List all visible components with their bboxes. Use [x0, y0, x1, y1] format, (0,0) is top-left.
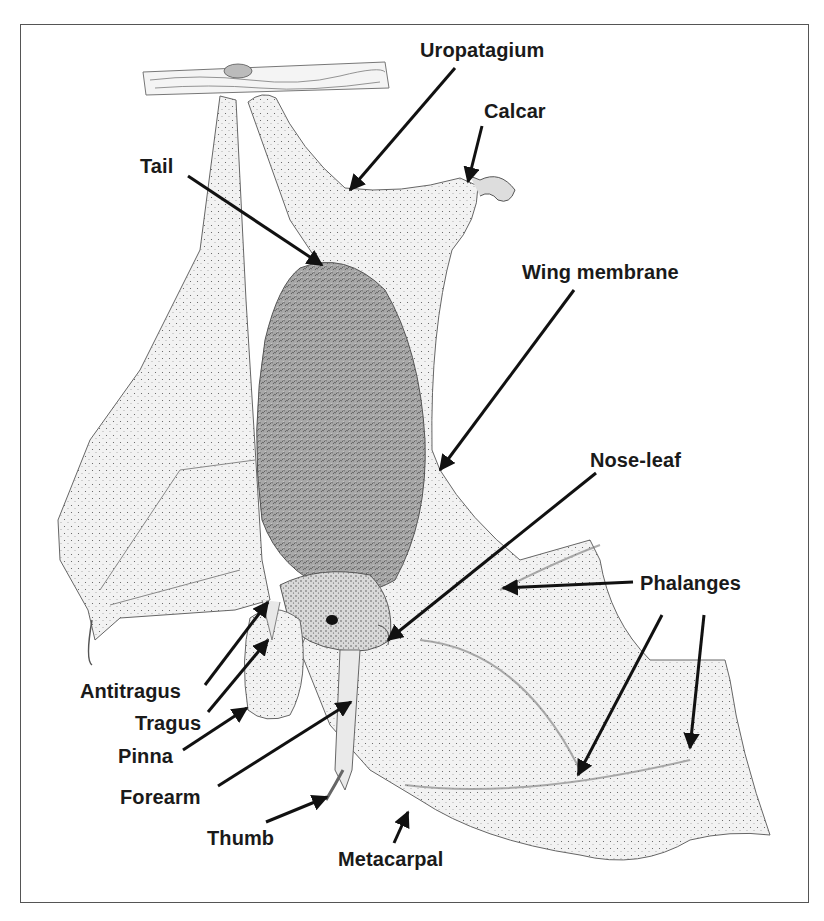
label-nose-leaf: Nose-leaf — [590, 450, 681, 470]
label-thumb: Thumb — [207, 828, 274, 848]
label-phalanges: Phalanges — [640, 573, 741, 593]
left-wing — [58, 96, 270, 640]
label-tail: Tail — [140, 156, 173, 176]
eye — [326, 615, 338, 625]
label-tragus: Tragus — [135, 713, 201, 733]
label-wing-membrane: Wing membrane — [522, 262, 679, 282]
arrow-wing-membrane-icon — [440, 290, 574, 470]
left-thumb-claw — [89, 620, 93, 665]
arrow-thumb-icon — [266, 797, 327, 822]
label-pinna: Pinna — [118, 746, 173, 766]
bat-illustration — [0, 0, 824, 921]
thumb-digit — [326, 770, 343, 800]
label-calcar: Calcar — [484, 101, 546, 121]
arrow-metacarpal-icon — [394, 812, 408, 843]
foot-claws — [224, 64, 252, 78]
arrow-calcar-icon — [468, 126, 482, 182]
label-antitragus: Antitragus — [80, 681, 181, 701]
bat-anatomy-figure: UropatagiumCalcarTailWing membraneNose-l… — [0, 0, 824, 921]
label-metacarpal: Metacarpal — [338, 849, 444, 869]
branch — [143, 62, 389, 95]
label-forearm: Forearm — [120, 787, 201, 807]
label-uropatagium: Uropatagium — [420, 40, 544, 60]
